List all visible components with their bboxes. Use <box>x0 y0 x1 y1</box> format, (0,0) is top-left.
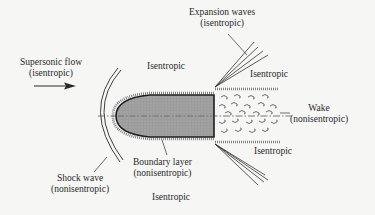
expansion-leader <box>228 34 247 55</box>
wake-boundary-hatching <box>215 89 280 142</box>
wake-swirls-icon <box>219 95 277 133</box>
isentropic-top-right-label: Isentropic <box>250 69 288 80</box>
shock-wave-leader <box>94 157 107 172</box>
isentropic-top-left-label: Isentropic <box>147 61 185 72</box>
flow-arrow-icon <box>34 83 76 90</box>
supersonic-flow-label: Supersonic flow (isentropic) <box>20 57 82 79</box>
boundary-layer-label: Boundary layer (nonisentropic) <box>133 157 192 179</box>
isentropic-bottom-right-label: Isentropic <box>254 146 292 157</box>
wake-label: Wake (nonisentropic) <box>290 103 348 125</box>
shock-wave-label: Shock wave (nonisentropic) <box>51 173 109 195</box>
isentropic-bottom-label: Isentropic <box>152 192 190 203</box>
boundary-layer-leader <box>162 140 167 155</box>
expansion-waves-label: Expansion waves (isentropic) <box>189 7 255 29</box>
